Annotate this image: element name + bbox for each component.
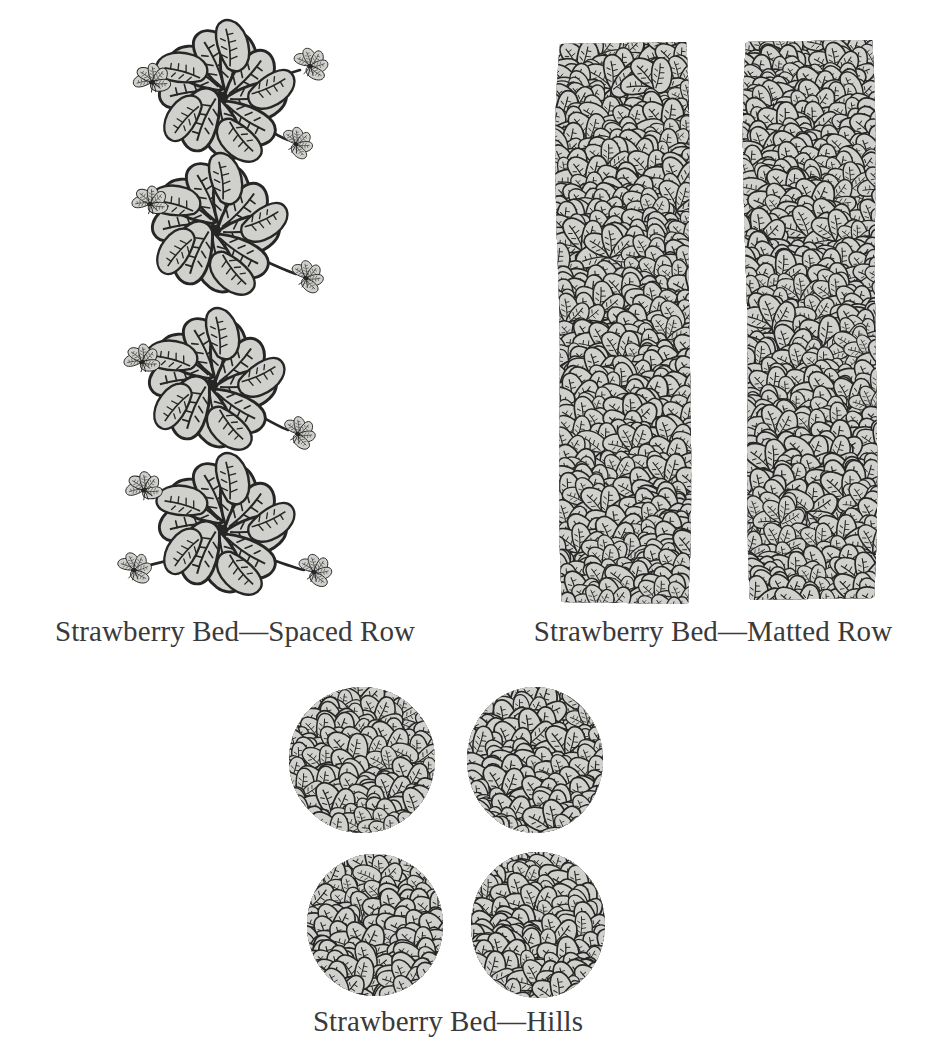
caption-hills: Strawberry Bed—Hills — [248, 1005, 648, 1038]
caption-matted-row: Strawberry Bed—Matted Row — [480, 615, 946, 648]
strawberry-bed-illustration — [0, 0, 946, 1060]
caption-spaced-row: Strawberry Bed—Spaced Row — [0, 615, 470, 648]
